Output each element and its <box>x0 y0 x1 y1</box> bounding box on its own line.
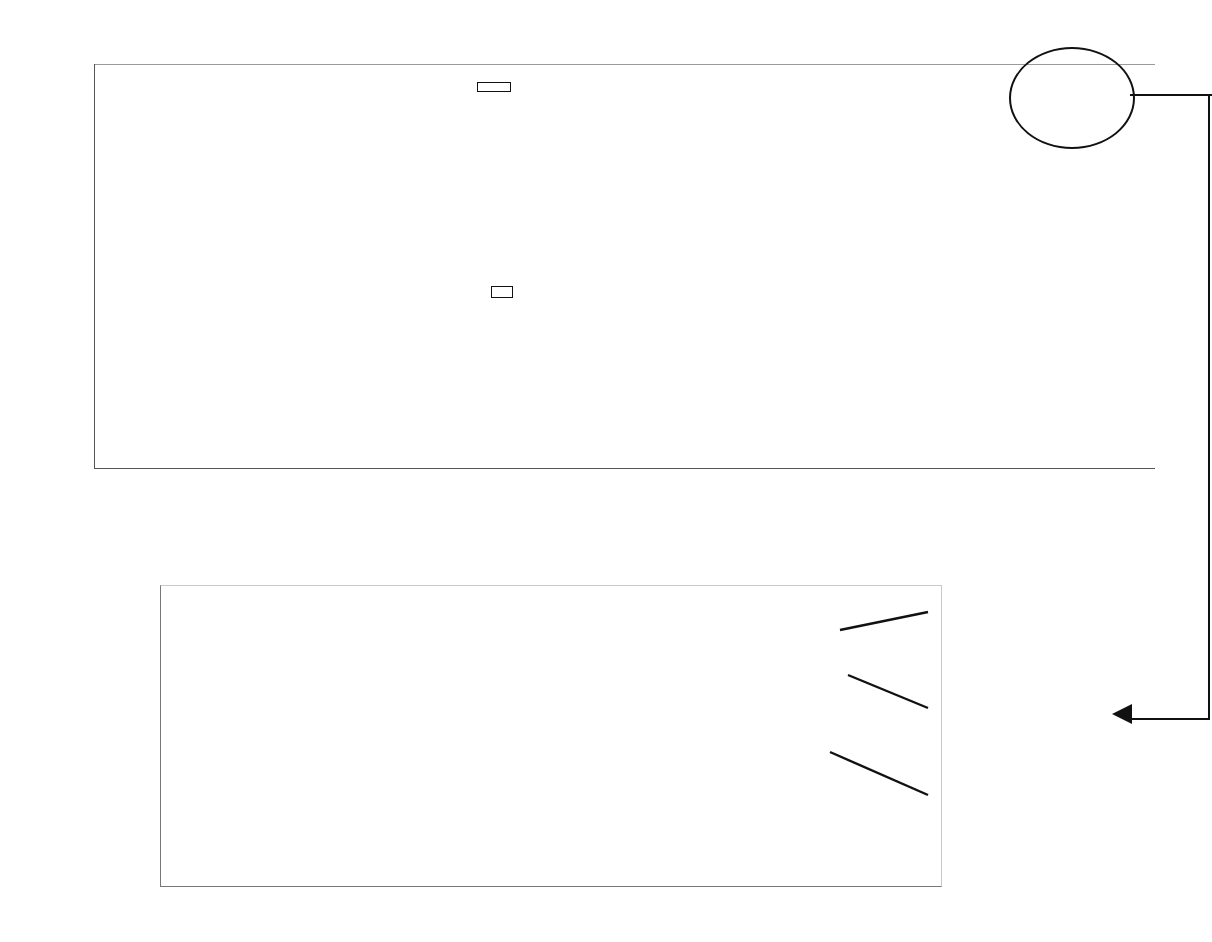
top-chart-bars <box>95 64 1155 468</box>
legend-mutual-agreement <box>491 286 513 298</box>
callout-leader-vertical <box>1208 94 1210 720</box>
callout-arrow-icon <box>1112 704 1132 724</box>
bottom-chart-plot-area <box>160 585 942 887</box>
callout-leader-top <box>1130 94 1212 96</box>
bottom-chart-bars <box>161 586 941 886</box>
legend-court-divorce <box>477 82 511 92</box>
callout-ellipse <box>1009 47 1135 149</box>
figure-title <box>0 2 1211 28</box>
callout-leader-bottom <box>1126 718 1210 720</box>
annotation-leader-lines <box>830 590 940 840</box>
top-chart-plot-area <box>94 64 1155 469</box>
